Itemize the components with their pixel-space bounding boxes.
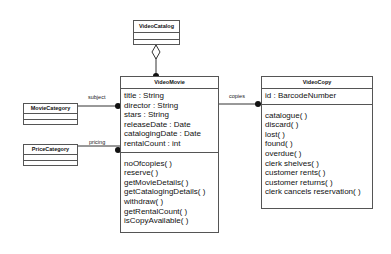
attribute: id : BarcodeNumber	[262, 91, 372, 101]
operations-section	[134, 40, 179, 46]
class-name: VideoCopy	[262, 77, 372, 89]
class-name: MovieCategory	[24, 104, 77, 114]
operation: found( )	[262, 139, 372, 149]
attributes-section: title : String director : String stars :…	[121, 89, 218, 153]
attribute: catalogingDate : Date	[121, 129, 218, 139]
class-name: VideoCatalog	[134, 21, 179, 33]
association-label-copies: copies	[229, 93, 245, 99]
operation: getMovieDetails( )	[121, 178, 218, 188]
operation: customer returns( )	[262, 178, 372, 188]
attribute: stars : String	[121, 110, 218, 120]
attribute: rentalCount : int	[121, 139, 218, 149]
operation: getRentalCount( )	[121, 207, 218, 217]
class-video-copy: VideoCopy id : BarcodeNumber catalogue( …	[261, 76, 373, 209]
class-name: PriceCategory	[24, 145, 77, 155]
operation: catalogue( )	[262, 111, 372, 121]
class-movie-category: MovieCategory	[23, 103, 78, 125]
attribute: releaseDate : Date	[121, 120, 218, 130]
attributes-section	[134, 33, 179, 40]
operation: clerk shelves( )	[262, 159, 372, 169]
attribute: director : String	[121, 101, 218, 111]
aggregation-diamond-icon	[152, 45, 160, 59]
association-label-subject: subject	[88, 94, 105, 100]
class-video-catalog: VideoCatalog	[133, 20, 180, 45]
attribute: title : String	[121, 91, 218, 101]
class-video-movie: VideoMovie title : String director : Str…	[120, 76, 219, 233]
class-price-category: PriceCategory	[23, 144, 78, 166]
operation: customer rents( )	[262, 168, 372, 178]
association-label-pricing: pricing	[89, 139, 105, 145]
attributes-section: id : BarcodeNumber	[262, 89, 372, 105]
operation: lost( )	[262, 130, 372, 140]
operation: isCopyAvailable( )	[121, 216, 218, 226]
operation: withdraw( )	[121, 197, 218, 207]
operations-section	[24, 161, 77, 166]
operation: noOfcopies( )	[121, 159, 218, 169]
operations-section: catalogue( ) discard( ) lost( ) found( )…	[262, 105, 372, 199]
operation: getCatalogingDetails( )	[121, 187, 218, 197]
operations-section	[24, 120, 77, 125]
operation: overdue( )	[262, 149, 372, 159]
class-name: VideoMovie	[121, 77, 218, 89]
operation: reserve( )	[121, 168, 218, 178]
operation: discard( )	[262, 120, 372, 130]
operation: clerk cancels reservation( )	[262, 187, 372, 197]
operations-section: noOfcopies( ) reserve( ) getMovieDetails…	[121, 153, 218, 228]
